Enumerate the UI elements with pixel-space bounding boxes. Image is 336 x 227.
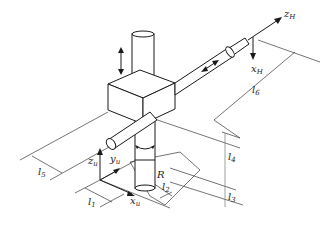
label-zu: zu: [87, 155, 98, 168]
label-l5: l5: [38, 166, 46, 179]
label-yu: yu: [109, 153, 121, 166]
label-l3: l3: [228, 191, 236, 204]
label-xH: xH: [251, 63, 264, 76]
label-l2: l2: [162, 181, 170, 194]
label-R: R: [156, 169, 165, 180]
carriage-block: [108, 70, 175, 124]
label-l6: l6: [252, 84, 260, 97]
label-xu: xu: [130, 195, 141, 208]
label-zH: zH: [283, 8, 296, 21]
horizontal-arm: [175, 17, 282, 95]
base-frame-axes: [97, 148, 135, 196]
dimension-lines: [20, 40, 320, 208]
label-l1: l1: [88, 196, 96, 209]
vertical-motion-icon: [118, 47, 124, 75]
xH-axis: [250, 37, 256, 60]
cylindrical-robot-diagram: zH xH zu yu xu R l1 l2 l3 l4 l5 l6: [0, 0, 336, 227]
label-l4: l4: [228, 151, 236, 164]
